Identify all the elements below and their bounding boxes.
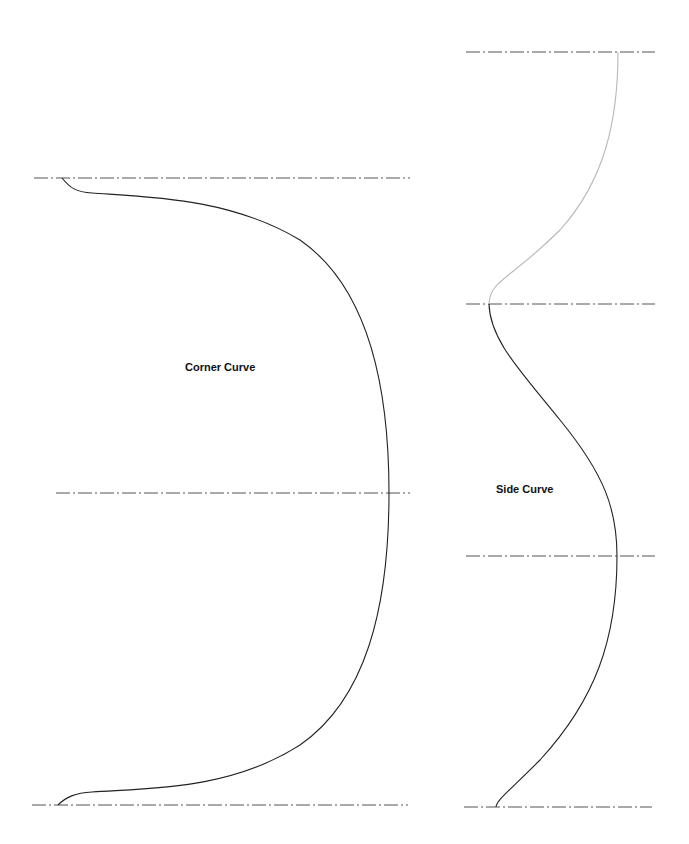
curve-template-diagram bbox=[0, 0, 689, 844]
corner-curve bbox=[58, 178, 389, 805]
side-curve-lower bbox=[489, 304, 617, 807]
side-curve-label: Side Curve bbox=[496, 483, 553, 495]
corner-curve-label: Corner Curve bbox=[185, 361, 255, 373]
side-curve-upper bbox=[489, 52, 618, 304]
